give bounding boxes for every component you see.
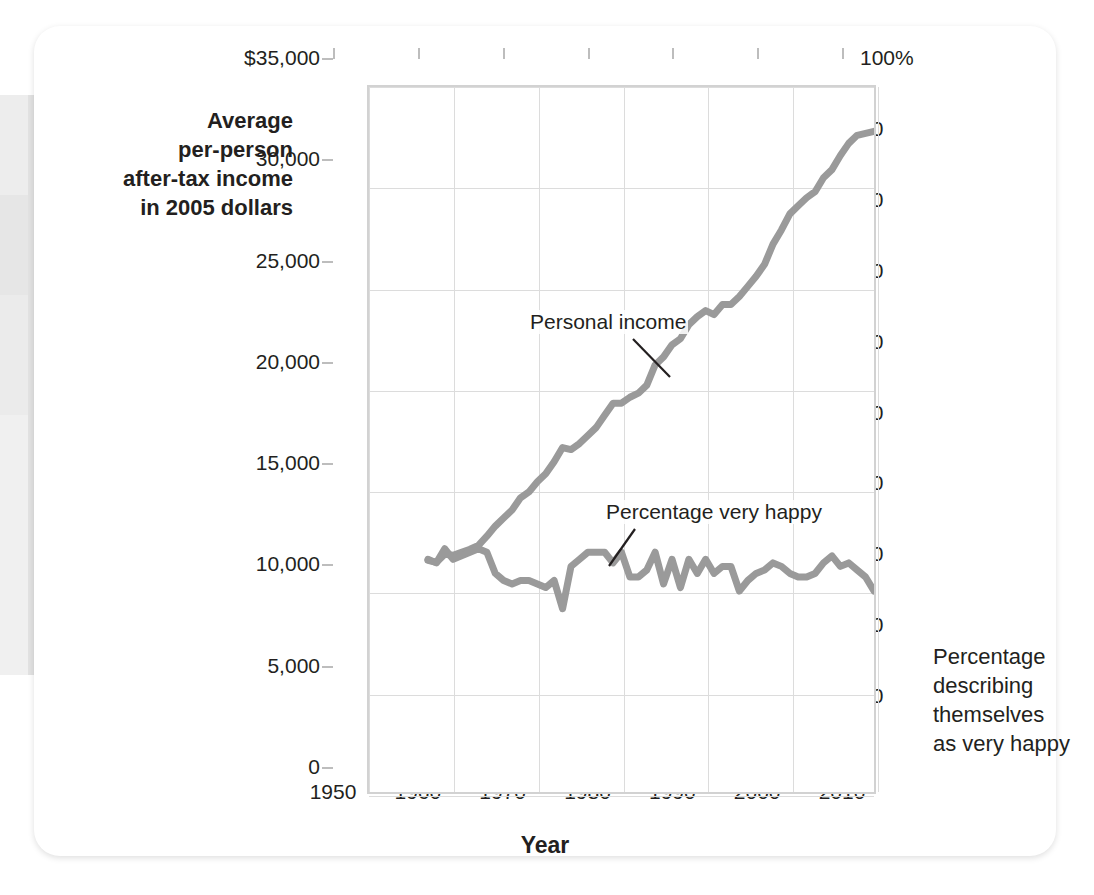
y-axis-left-tick-label: 0 bbox=[208, 755, 320, 779]
y-axis-left-tick-label: $35,000 bbox=[208, 46, 320, 70]
y-axis-left-tick-label: 15,000 bbox=[208, 451, 320, 475]
x-axis-tick-label: 1950 bbox=[288, 780, 378, 804]
left-axis-title-line: in 2005 dollars bbox=[118, 193, 293, 222]
plot-area bbox=[367, 85, 876, 794]
percentage-very-happy-label: Percentage very happy bbox=[604, 500, 824, 524]
y-axis-left-tick-label: 20,000 bbox=[208, 350, 320, 374]
y-axis-left-tickmark bbox=[322, 261, 333, 263]
series-lines bbox=[369, 87, 874, 792]
y-axis-left-tickmark bbox=[322, 767, 333, 769]
gridline-horizontal bbox=[369, 796, 874, 797]
x-axis-tickmark-top bbox=[333, 48, 335, 59]
right-axis-title-line: themselves bbox=[933, 700, 1094, 729]
y-axis-left-tickmark bbox=[322, 58, 333, 60]
y-axis-left-tickmark bbox=[322, 362, 333, 364]
series-line-percentage-very-happy bbox=[428, 549, 874, 609]
right-axis-title-line: as very happy bbox=[933, 729, 1094, 758]
series-line-personal-income bbox=[428, 131, 874, 562]
y-axis-left-tick-label: 10,000 bbox=[208, 552, 320, 576]
left-axis-title-line: Average bbox=[118, 106, 293, 135]
y-axis-left-tickmark bbox=[322, 159, 333, 161]
x-axis-tickmark-top bbox=[842, 48, 844, 59]
right-axis-title: Percentage describing themselves as very… bbox=[933, 642, 1094, 758]
gridline-vertical bbox=[878, 87, 879, 792]
y-axis-left-tickmark bbox=[322, 666, 333, 668]
x-axis-tickmark-top bbox=[503, 48, 505, 59]
y-axis-left-tick-label: 30,000 bbox=[208, 147, 320, 171]
right-axis-title-line: describing bbox=[933, 671, 1094, 700]
y-axis-right-tick-label: 100% bbox=[860, 46, 914, 70]
right-axis-title-line: Percentage bbox=[933, 642, 1094, 671]
x-axis-tickmark-top bbox=[672, 48, 674, 59]
y-axis-left-tick-label: 5,000 bbox=[208, 654, 320, 678]
personal-income-label: Personal income bbox=[528, 310, 688, 334]
x-axis-tickmark-top bbox=[588, 48, 590, 59]
y-axis-left-tick-label: 25,000 bbox=[208, 249, 320, 273]
x-axis-tickmark-top bbox=[418, 48, 420, 59]
y-axis-left-tickmark bbox=[322, 564, 333, 566]
figure-card: Average per-person after-tax income in 2… bbox=[34, 26, 1056, 856]
y-axis-left-tickmark bbox=[322, 463, 333, 465]
x-axis-title: Year bbox=[34, 832, 1056, 859]
x-axis-tickmark-top bbox=[757, 48, 759, 59]
